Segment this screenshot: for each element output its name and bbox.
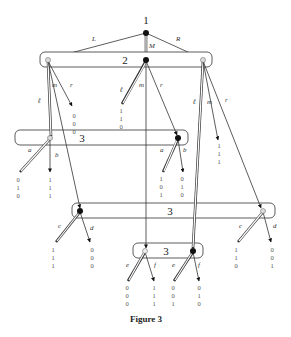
svg-text:1: 1 [159,175,162,182]
node-3c-right [190,248,196,254]
node-3a-right [175,135,181,141]
svg-text:0: 0 [171,292,174,299]
svg-text:1: 1 [16,184,19,191]
svg-text:0: 0 [180,191,183,198]
payoff-M-r-a: 1 0 1 [159,175,162,198]
svg-text:1: 1 [119,107,122,114]
move-d-label-left: d [90,224,94,232]
svg-text:0: 0 [90,254,93,261]
svg-text:0: 0 [16,176,19,183]
svg-text:1: 1 [234,254,237,261]
svg-text:1: 1 [152,284,155,291]
figure-caption: Figure 3 [130,314,163,324]
root-node [143,30,149,36]
svg-text:1: 1 [234,246,237,253]
node-3b-left [77,208,83,214]
svg-text:0: 0 [270,254,273,261]
svg-text:0: 0 [72,120,75,127]
svg-text:0: 0 [72,112,75,119]
node-2-left [46,58,51,63]
node-3a-left [48,136,53,141]
payoff-R-r-c: 1 1 0 [234,246,237,269]
svg-text:0: 0 [180,175,183,182]
move-a-label-right: a [160,146,164,154]
move-c-label-right: c [239,222,243,230]
payoff-M-l: 1 1 0 [119,107,122,130]
payoff-L-m-c: 1 1 1 [51,246,54,269]
root-player-label: 1 [143,14,149,26]
svg-text:1: 1 [51,262,54,269]
info-set-3c-label: 3 [163,245,169,257]
info-set-2-label: 2 [122,54,128,66]
svg-text:1: 1 [51,254,54,261]
node-2-middle [143,57,149,63]
svg-text:0: 0 [234,262,237,269]
svg-text:1: 1 [48,192,51,199]
move-f-label-right: f [198,261,201,269]
svg-text:0: 0 [125,284,128,291]
game-tree-diagram: 1 L M R 2 3 3 3 ℓ m r ℓ m [0,0,291,337]
svg-text:0: 0 [72,128,75,135]
move-R-label: R [175,35,181,43]
move-b-label-left: b [55,151,59,159]
svg-text:0: 0 [197,300,200,307]
svg-text:1: 1 [51,246,54,253]
payoff-L-l-a: 0 1 0 [16,176,19,199]
svg-text:0: 0 [125,300,128,307]
move-d-label-right: d [273,222,277,230]
payoff-R-r-d: 0 0 1 [270,246,273,269]
move-e-label-left: e [126,261,129,269]
info-set-3a-box [15,130,188,145]
move-b-label-right: b [183,146,187,154]
svg-text:1: 1 [217,142,220,149]
move-e-label-right: e [172,261,175,269]
info-set-3b-label: 3 [167,205,173,217]
move-l-label-left: ℓ [37,97,41,105]
svg-text:1: 1 [152,292,155,299]
move-m-label-right: m [207,98,212,106]
payoff-R-l-e: 0 0 1 [171,284,174,307]
svg-text:0: 0 [90,246,93,253]
svg-text:0: 0 [90,262,93,269]
svg-text:1: 1 [159,191,162,198]
move-r-label-left: r [70,81,73,89]
payoff-M-r-b: 0 1 0 [180,175,183,198]
move-m-label-mid: m [139,81,144,89]
svg-text:0: 0 [270,246,273,253]
move-m-label-left: m [52,81,57,89]
move-c-label-left: c [58,222,62,230]
svg-text:1: 1 [217,150,220,157]
svg-text:0: 0 [197,284,200,291]
svg-text:0: 0 [171,284,174,291]
info-set-3b-box [72,203,275,218]
move-M-label: M [148,42,156,50]
node-2-right [201,58,206,63]
payoff-R-l-f: 0 1 0 [197,284,200,307]
svg-text:1: 1 [217,158,220,165]
svg-text:1: 1 [119,115,122,122]
node-3c-left [143,249,148,254]
move-l-label-right: ℓ [192,98,196,106]
level2-edges [48,61,261,248]
svg-text:1: 1 [197,292,200,299]
payoff-M-m-e: 0 0 0 [125,284,128,307]
move-l-label-mid: ℓ [119,86,123,94]
move-f-label-left: f [154,261,157,269]
svg-text:0: 0 [119,123,122,130]
info-set-3a-label: 3 [79,132,85,144]
payoff-R-m: 1 1 1 [217,142,220,165]
move-L-label: L [91,35,96,43]
svg-text:1: 1 [48,176,51,183]
svg-text:1: 1 [152,300,155,307]
payoff-L-r: 0 0 0 [72,112,75,135]
move-r-label-right: r [225,96,228,104]
payoff-L-l-b: 1 1 1 [48,176,51,199]
move-r-label-mid: r [160,81,163,89]
svg-text:1: 1 [270,262,273,269]
svg-text:0: 0 [159,183,162,190]
svg-text:1: 1 [171,300,174,307]
svg-text:1: 1 [48,184,51,191]
svg-text:0: 0 [125,292,128,299]
move-a-label-left: a [28,146,32,154]
payoff-M-m-f: 1 1 1 [152,284,155,307]
